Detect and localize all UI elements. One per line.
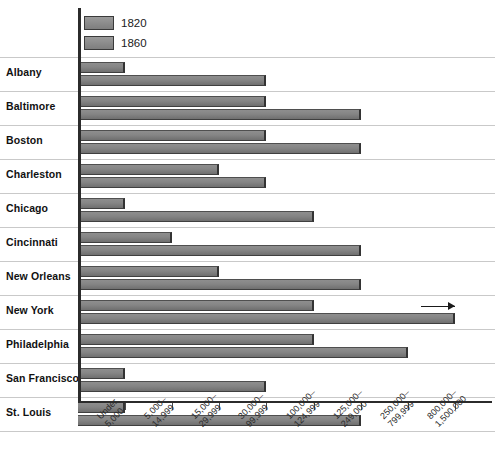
bar-1820 [78,96,266,107]
category-row: Cincinnati [0,227,495,261]
legend-item-1860: 1860 [84,34,147,51]
legend-swatch-1820 [84,16,114,30]
category-label: Cincinnati [6,236,58,248]
bar-1860 [78,143,361,154]
y-axis-line [78,8,81,403]
category-row: Albany [0,57,495,91]
arrow-head [448,302,455,310]
category-row: Charleston [0,159,495,193]
gridline [0,431,495,432]
x-axis-line [78,401,492,403]
bar-1860 [78,381,266,392]
category-row: Boston [0,125,495,159]
category-row: Baltimore [0,91,495,125]
category-row: New Orleans [0,261,495,295]
legend-label-1860: 1860 [121,37,147,49]
category-label: New York [6,304,54,316]
category-label: Chicago [6,202,48,214]
bar-1860 [78,347,408,358]
bar-1820 [78,198,125,209]
category-label: Albany [6,66,42,78]
category-row: Chicago [0,193,495,227]
legend-item-1820: 1820 [84,14,147,31]
bar-1860 [78,177,266,188]
category-label: Baltimore [6,100,55,112]
category-label: San Francisco [6,372,79,384]
bar-1820 [78,232,172,243]
bar-1820 [78,266,219,277]
legend-label-1820: 1820 [121,17,147,29]
bar-1820 [78,130,266,141]
bar-1820 [78,368,125,379]
overflow-arrow-icon [421,302,455,311]
category-row: New York [0,295,495,329]
category-row: San Francisco [0,363,495,397]
bar-1860 [78,245,361,256]
category-label: Charleston [6,168,62,180]
chart-legend: 1820 1860 [84,14,147,54]
bar-1860 [78,279,361,290]
bar-1820 [78,62,125,73]
bar-1860 [78,313,455,324]
bar-1860 [78,109,361,120]
legend-swatch-1860 [84,36,114,50]
bar-1820 [78,164,219,175]
category-row: Philadelphia [0,329,495,363]
bar-chart: 1820 1860 AlbanyBaltimoreBostonCharlesto… [0,0,495,457]
category-label: Philadelphia [6,338,69,350]
bar-1820 [78,300,314,311]
bar-1820 [78,334,314,345]
bar-1860 [78,75,266,86]
category-label: Boston [6,134,43,146]
category-label: St. Louis [6,406,51,418]
bar-1860 [78,211,314,222]
category-label: New Orleans [6,270,71,282]
